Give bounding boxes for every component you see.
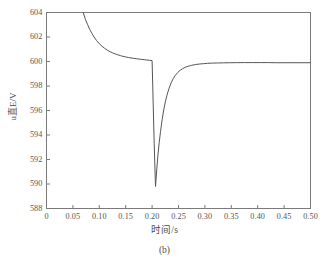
x-tick-label: 0.15 (112, 212, 140, 221)
x-tick-label: 0.40 (244, 212, 272, 221)
y-axis-ticks (47, 13, 51, 209)
y-tick-label: 604 (17, 8, 43, 17)
figure-caption: (b) (0, 245, 329, 255)
y-tick-label: 588 (17, 204, 43, 213)
line-chart-plot (0, 0, 329, 240)
y-tick-label: 598 (17, 81, 43, 90)
x-tick-label: 0.50 (297, 212, 325, 221)
y-axis-title: u直E/V (6, 77, 19, 137)
y-tick-label: 590 (17, 179, 43, 188)
x-axis-ticks (47, 205, 311, 209)
figure-container: 00.050.100.150.200.250.300.350.400.450.5… (0, 0, 329, 272)
x-axis-title: 时间/s (0, 222, 329, 236)
x-tick-label: 0.45 (270, 212, 298, 221)
y-tick-label: 596 (17, 106, 43, 115)
data-series-line (81, 5, 311, 186)
x-tick-label: 0.10 (85, 212, 113, 221)
x-tick-label: 0.30 (191, 212, 219, 221)
x-tick-label: 0.20 (138, 212, 166, 221)
y-tick-label: 592 (17, 155, 43, 164)
y-tick-label: 600 (17, 57, 43, 66)
x-tick-label: 0.35 (217, 212, 245, 221)
x-tick-label: 0 (33, 212, 61, 221)
y-tick-label: 594 (17, 130, 43, 139)
x-tick-label: 0.05 (59, 212, 87, 221)
y-tick-label: 602 (17, 32, 43, 41)
plot-frame (47, 13, 311, 209)
chart-area: 00.050.100.150.200.250.300.350.400.450.5… (0, 0, 329, 240)
x-tick-label: 0.25 (165, 212, 193, 221)
